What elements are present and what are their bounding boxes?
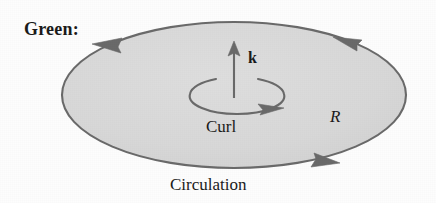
curl-label: Curl — [206, 118, 236, 135]
theorem-name-label: Green: — [24, 20, 79, 38]
circulation-label: Circulation — [170, 176, 246, 193]
greens-theorem-figure: Green: k Curl R Circulation — [0, 0, 436, 203]
region-label: R — [330, 108, 340, 125]
normal-vector-label: k — [248, 50, 257, 66]
